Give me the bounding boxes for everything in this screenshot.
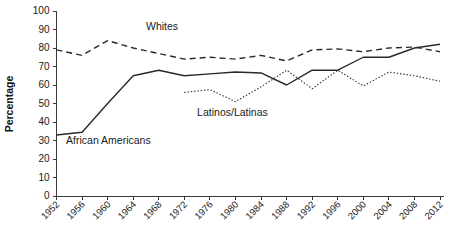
- series-label-whites: Whites: [146, 20, 178, 32]
- x-tick-label: 1972: [167, 199, 190, 222]
- series-line-latinos-latinas: [184, 70, 440, 101]
- y-tick-label: 100: [33, 5, 50, 16]
- line-chart: 0102030405060708090100 19521956196019641…: [0, 0, 458, 242]
- y-tick-label: 40: [38, 116, 50, 127]
- series-annotations: WhitesAfrican AmericansLatinos/Latinas: [66, 20, 268, 147]
- chart-container: 0102030405060708090100 19521956196019641…: [0, 0, 458, 242]
- y-tick-label: 90: [38, 24, 50, 35]
- y-tick-label: 30: [38, 135, 50, 146]
- y-tick-label: 10: [38, 172, 50, 183]
- series-label-latinos-latinas: Latinos/Latinas: [197, 106, 268, 118]
- x-tick-label: 1988: [269, 199, 292, 222]
- y-axis-ticks: 0102030405060708090100: [33, 5, 57, 201]
- x-axis-ticks: 1952195619601964196819721976198019841988…: [39, 196, 445, 221]
- y-axis-title: Percentage: [3, 76, 15, 133]
- x-tick-label: 1980: [218, 199, 241, 222]
- series-line-african-americans: [57, 44, 441, 135]
- y-tick-label: 0: [44, 190, 50, 201]
- x-tick-label: 1976: [192, 199, 215, 222]
- x-tick-label: 1992: [294, 199, 317, 222]
- y-tick-label: 50: [38, 98, 50, 109]
- x-tick-label: 2012: [422, 199, 445, 222]
- y-tick-label: 70: [38, 61, 50, 72]
- series-label-african-americans: African Americans: [66, 134, 151, 146]
- x-tick-label: 1960: [90, 199, 113, 222]
- x-tick-label: 2008: [397, 199, 420, 222]
- x-tick-label: 1996: [320, 199, 343, 222]
- x-tick-label: 1964: [115, 199, 138, 222]
- data-series-group: [57, 41, 441, 135]
- x-tick-label: 1968: [141, 199, 164, 222]
- x-tick-label: 2004: [371, 199, 394, 222]
- x-tick-label: 1956: [64, 199, 87, 222]
- y-tick-label: 20: [38, 153, 50, 164]
- x-tick-label: 1984: [243, 199, 266, 222]
- x-tick-label: 1952: [39, 199, 62, 222]
- y-tick-label: 80: [38, 42, 50, 53]
- x-tick-label: 2000: [345, 199, 368, 222]
- y-tick-label: 60: [38, 79, 50, 90]
